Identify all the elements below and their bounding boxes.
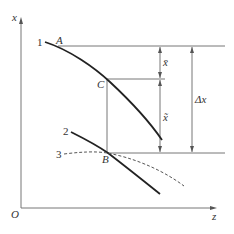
dim-xtilde-label: x̃	[162, 111, 169, 123]
curve-2-label: 2	[63, 125, 69, 137]
origin-label: O	[11, 208, 19, 220]
diagram-canvas: x z O x̄ x̃ Δx 1 2 3	[0, 0, 234, 234]
curve-1-label: 1	[37, 36, 43, 48]
dim-xtilde-arrow-down-icon	[158, 146, 162, 152]
y-axis-arrow-icon	[19, 17, 23, 24]
point-A-label: A	[55, 34, 63, 46]
curve-labels: 1 2 3	[37, 36, 69, 160]
dim-deltax-label: Δx	[194, 93, 206, 105]
dim-xbar-arrow-down-icon	[158, 72, 162, 78]
dim-xtilde-arrow-up-icon	[158, 80, 162, 86]
curve-3-label: 3	[56, 148, 62, 160]
dim-deltax-arrow-down-icon	[190, 146, 194, 152]
dim-xbar-arrow-up-icon	[158, 47, 162, 53]
x-axis-label: z	[211, 210, 217, 222]
curve-3	[64, 152, 184, 186]
point-B-label: B	[102, 153, 109, 165]
point-labels: A C B	[55, 34, 109, 165]
dimension-arrows: x̄ x̃ Δx	[158, 47, 206, 152]
curve-2	[71, 132, 160, 194]
dim-deltax-arrow-up-icon	[190, 47, 194, 53]
point-C-label: C	[97, 78, 105, 90]
y-axis-label: x	[11, 11, 17, 23]
dim-xbar-label: x̄	[162, 56, 168, 68]
